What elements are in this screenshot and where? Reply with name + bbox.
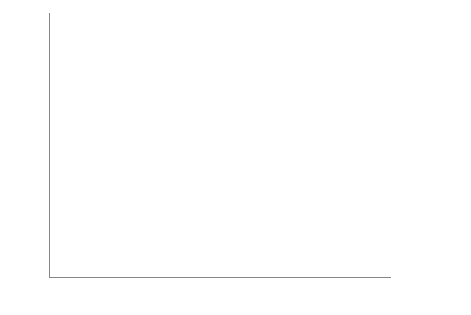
stacked-area-svg bbox=[49, 13, 390, 277]
renewable-energy-stacked-area-chart bbox=[0, 0, 471, 315]
y-axis-line bbox=[49, 13, 50, 278]
plot-area bbox=[49, 13, 390, 277]
x-axis-line bbox=[49, 277, 391, 278]
